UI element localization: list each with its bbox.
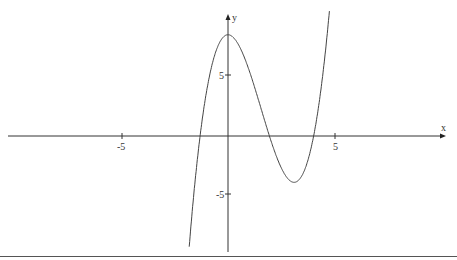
- function-plot: x y -5 5 5 -5: [0, 0, 457, 260]
- y-axis-arrow-icon: [226, 14, 231, 20]
- x-tick-label-pos5: 5: [333, 141, 338, 152]
- x-axis-arrow-icon: [440, 134, 446, 139]
- x-axis-label: x: [441, 122, 446, 133]
- y-tick-label-pos5: 5: [219, 70, 224, 81]
- function-curve: [189, 11, 329, 247]
- x-tick-label-neg5: -5: [117, 141, 125, 152]
- y-axis-label: y: [232, 12, 237, 23]
- y-tick-label-neg5: -5: [216, 189, 224, 200]
